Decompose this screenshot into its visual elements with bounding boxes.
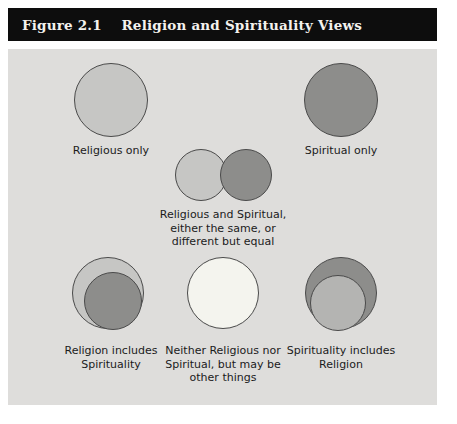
caption-religious-and-spiritual: Religious and Spiritual, either the same… xyxy=(160,208,286,249)
circle-religion xyxy=(74,63,148,137)
circle-spirituality-inner xyxy=(84,272,142,330)
caption-spirituality-includes-religion: Spirituality includes Religion xyxy=(287,344,396,371)
figure-title-bar: Figure 2.1 Religion and Spirituality Vie… xyxy=(8,8,437,41)
circle-religion xyxy=(175,149,227,201)
diagram-spirituality-includes-religion xyxy=(302,257,380,337)
diagram-religious-only xyxy=(74,63,148,137)
cell-religious-and-spiritual: Religious and Spiritual, either the same… xyxy=(128,149,318,249)
circle-religion-inner xyxy=(310,275,366,331)
cell-spirituality-includes-religion: Spirituality includes Religion xyxy=(246,257,436,371)
circle-spirituality xyxy=(220,149,272,201)
figure-container: Figure 2.1 Religion and Spirituality Vie… xyxy=(0,0,457,424)
diagram-spiritual-only xyxy=(304,63,378,137)
diagram-panel: Religious only Spiritual only Religious … xyxy=(8,49,437,405)
cell-spiritual-only: Spiritual only xyxy=(246,63,436,158)
diagram-religious-and-spiritual xyxy=(175,149,272,201)
circle-spirituality xyxy=(304,63,378,137)
cell-religious-only: Religious only xyxy=(16,63,206,158)
figure-title: Figure 2.1 Religion and Spirituality Vie… xyxy=(8,17,362,33)
